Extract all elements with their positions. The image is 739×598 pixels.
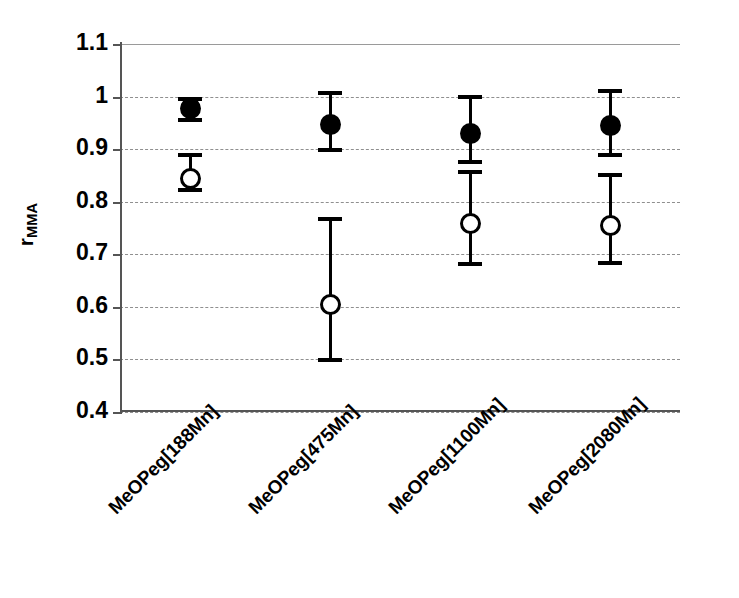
plot-top-border: [120, 44, 680, 45]
data-point-marker-open: [460, 213, 481, 234]
gridline: [120, 97, 680, 98]
y-axis-tick-labels: 1.110.90.80.70.60.50.4: [40, 0, 108, 598]
y-axis-tick-mark: [113, 254, 122, 256]
y-axis-title-subscript: MMA: [24, 203, 40, 238]
data-point-marker-open: [180, 168, 201, 189]
y-axis-tick-mark: [113, 412, 122, 414]
y-axis-tick-mark: [113, 44, 122, 46]
gridline: [120, 254, 680, 255]
error-bar-cap-upper: [458, 170, 482, 174]
data-point-marker-open: [600, 215, 621, 236]
gridline: [120, 307, 680, 308]
y-axis-tick-label: 1.1: [48, 31, 108, 54]
data-point-marker-open: [320, 294, 341, 315]
y-axis-title-base: r: [14, 238, 37, 246]
y-axis-tick-label: 0.7: [48, 241, 108, 264]
y-axis-title: rMMA: [14, 180, 39, 270]
y-axis-tick-label: 0.4: [48, 399, 108, 422]
error-bar-cap-lower: [318, 148, 342, 152]
y-axis-tick-mark: [113, 97, 122, 99]
y-axis-tick-label: 0.5: [48, 346, 108, 369]
y-axis-tick-label: 0.9: [48, 136, 108, 159]
data-point-marker-filled: [180, 98, 201, 119]
data-point-marker-filled: [320, 114, 341, 135]
y-axis-tick-mark: [113, 307, 122, 309]
error-bar-cap-lower: [598, 261, 622, 265]
error-bar-cap-lower: [318, 358, 342, 362]
error-bar-cap-lower: [178, 188, 202, 192]
data-point-marker-filled: [460, 123, 481, 144]
y-axis-tick-mark: [113, 149, 122, 151]
y-axis-tick-label: 0.6: [48, 294, 108, 317]
x-axis-category-label: MeOPeg[188Mn]: [104, 401, 222, 519]
chart-figure: rMMA 1.110.90.80.70.60.50.4 MeOPeg[188Mn…: [0, 0, 739, 598]
error-bar-cap-upper: [318, 91, 342, 95]
y-axis-tick-mark: [113, 202, 122, 204]
gridline: [120, 202, 680, 203]
error-bar-cap-upper: [318, 217, 342, 221]
error-bar-cap-lower: [458, 160, 482, 164]
error-bar-cap-upper: [178, 153, 202, 157]
y-axis-tick-mark: [113, 359, 122, 361]
y-axis-tick-label: 1: [48, 84, 108, 107]
gridline: [120, 149, 680, 150]
x-axis-category-label: MeOPeg[475Mn]: [244, 401, 362, 519]
error-bar-cap-lower: [458, 262, 482, 266]
error-bar-cap-upper: [458, 95, 482, 99]
y-axis-tick-label: 0.8: [48, 189, 108, 212]
error-bar-cap-upper: [598, 89, 622, 93]
error-bar-line: [329, 217, 332, 362]
plot-area: [120, 44, 680, 412]
error-bar-cap-lower: [598, 153, 622, 157]
data-point-marker-filled: [600, 115, 621, 136]
error-bar-cap-upper: [598, 173, 622, 177]
gridline: [120, 359, 680, 360]
